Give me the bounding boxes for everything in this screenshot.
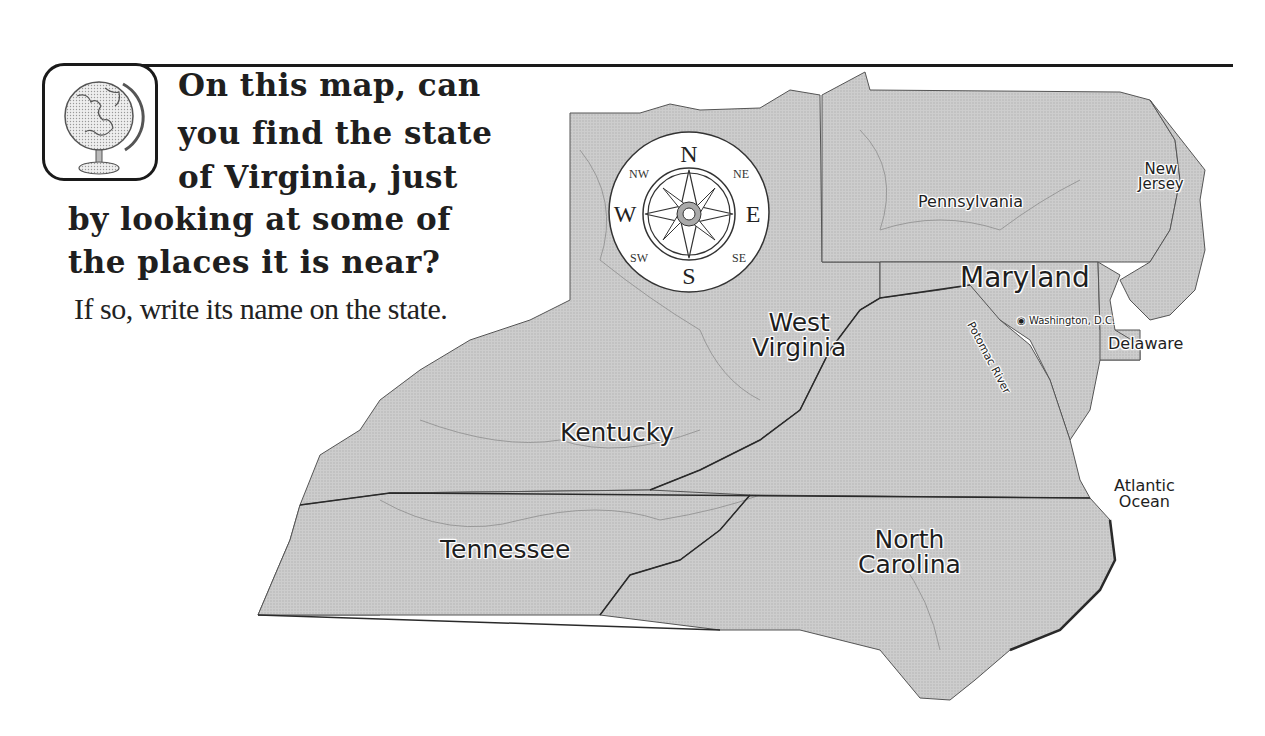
label-tennessee: Tennessee [440,537,570,562]
svg-text:NE: NE [733,167,749,181]
svg-text:NW: NW [629,167,650,181]
label-west-virginia-line-1: West [752,310,846,335]
svg-text:E: E [746,201,761,227]
label-kentucky: Kentucky [560,420,674,445]
region-map [0,0,1265,736]
label-washington-dc: ◉ Washington, D.C. [1017,316,1115,326]
label-pennsylvania: Pennsylvania [918,194,1023,210]
label-west-virginia: West Virginia [752,310,846,360]
label-north-carolina-line-1: North [858,527,961,552]
label-delaware: Delaware [1108,336,1183,352]
label-north-carolina-line-2: Carolina [858,552,961,577]
label-new-jersey: New Jersey [1138,162,1184,192]
svg-text:SE: SE [732,251,746,265]
svg-text:SW: SW [630,251,649,265]
label-washington-dc-text: Washington, D.C. [1029,315,1115,326]
city-dot-icon: ◉ [1017,315,1026,326]
svg-text:S: S [682,263,695,289]
label-new-jersey-line-2: Jersey [1138,177,1184,192]
svg-text:W: W [614,201,637,227]
label-west-virginia-line-2: Virginia [752,335,846,360]
label-atlantic-line-2: Ocean [1114,494,1175,510]
label-atlantic-ocean: Atlantic Ocean [1114,478,1175,510]
label-maryland: Maryland [960,264,1090,292]
compass-rose: N S W E NW NE SW SE [607,128,771,296]
state-pennsylvania [822,72,1180,262]
label-north-carolina: North Carolina [858,527,961,577]
compass-icon: N S W E NW NE SW SE [607,128,771,296]
svg-text:N: N [680,141,697,167]
